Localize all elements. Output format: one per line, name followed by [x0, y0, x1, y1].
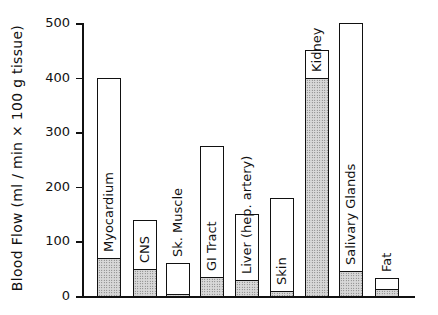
bar-label: Salivary Glands [343, 164, 358, 265]
y-tick-label: 200 [30, 179, 70, 194]
y-tick-label: 400 [30, 70, 70, 85]
bar-stippled-segment [236, 280, 258, 296]
y-tick-mark [76, 241, 83, 243]
bar-label: Myocardium [101, 172, 116, 252]
bar-label: GI Tract [204, 221, 219, 271]
bar-label: Fat [379, 253, 394, 272]
bar-stippled-segment [134, 269, 156, 296]
bar-label: Kidney [309, 27, 324, 71]
bar [375, 278, 399, 297]
y-axis [82, 23, 84, 297]
bar-stippled-segment [271, 291, 293, 296]
bar-stippled-segment [98, 258, 120, 296]
bar-stippled-segment [201, 277, 223, 296]
y-tick-label: 300 [30, 124, 70, 139]
bar-label: Sk. Muscle [170, 188, 185, 257]
bar-label: Skin [274, 257, 289, 285]
y-axis-label: Blood Flow (ml / min × 100 g tissue) [9, 23, 25, 293]
bar-stippled-segment [376, 289, 398, 296]
bar-stippled-segment [306, 78, 328, 296]
y-tick-mark [76, 187, 83, 189]
y-tick-label: 500 [30, 15, 70, 30]
y-tick-mark [76, 23, 83, 25]
bar-stippled-segment [340, 271, 362, 296]
y-tick-label: 100 [30, 233, 70, 248]
bar-label: CNS [137, 236, 152, 263]
y-tick-mark [76, 296, 83, 298]
bar [166, 263, 190, 297]
y-tick-label: 0 [30, 288, 70, 303]
y-tick-mark [76, 132, 83, 134]
bar-label: Liver (hep. artery) [239, 155, 254, 273]
bar-stippled-segment [167, 294, 189, 296]
y-tick-mark [76, 78, 83, 80]
bar [305, 50, 329, 297]
